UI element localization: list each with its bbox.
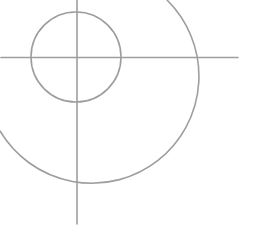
outer-arc bbox=[0, 0, 199, 183]
crosshair-diagram bbox=[0, 0, 259, 232]
